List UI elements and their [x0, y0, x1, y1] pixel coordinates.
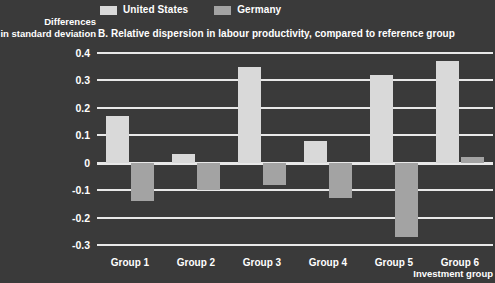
bar-united-states: [172, 154, 195, 162]
bar-germany: [197, 163, 220, 190]
legend-label-united-states: United States: [123, 5, 188, 15]
chart-title: B. Relative dispersion in labour product…: [98, 28, 455, 39]
bar-united-states: [436, 61, 459, 162]
bar-united-states: [238, 67, 261, 163]
y-axis-tick-label: 0.4: [75, 48, 90, 59]
bar-series-group: [97, 53, 493, 245]
y-axis-title-line-2: in standard deviation: [0, 28, 96, 40]
bar-group: [427, 53, 493, 245]
y-axis-tick-label: 0: [84, 157, 90, 168]
x-axis-label: Group 4: [295, 257, 361, 269]
y-axis-tick-label: -0.2: [72, 212, 90, 223]
chart-container: United States Germany Differences in sta…: [0, 0, 495, 283]
x-axis-label: Group 2: [163, 257, 229, 269]
chart-legend: United States Germany: [100, 3, 281, 17]
bar-germany: [461, 157, 484, 162]
legend-swatch-united-states: [100, 6, 117, 15]
y-axis-title: Differences in standard deviation: [0, 16, 96, 39]
y-axis-tick-label: 0.3: [75, 75, 90, 86]
legend-swatch-germany: [214, 6, 231, 15]
y-axis-tick-label: 0.1: [75, 130, 90, 141]
legend-label-germany: Germany: [237, 5, 281, 15]
bar-group: [295, 53, 361, 245]
plot-area: 0.40.30.20.10-0.1-0.2-0.3: [97, 53, 493, 245]
bar-germany: [263, 163, 286, 185]
y-axis-tick-label: -0.3: [72, 240, 90, 251]
bar-united-states: [106, 116, 129, 163]
y-axis-tick-label: 0.2: [75, 102, 90, 113]
y-axis-tick-label: -0.1: [72, 185, 90, 196]
bar-germany: [395, 163, 418, 237]
legend-item-united-states: United States: [100, 5, 188, 15]
legend-item-germany: Germany: [214, 5, 281, 15]
bar-germany: [131, 163, 154, 201]
x-axis-label: Group 3: [229, 257, 295, 269]
x-axis-title: Investment group: [413, 268, 493, 279]
bar-united-states: [304, 141, 327, 163]
bar-group: [163, 53, 229, 245]
bar-group: [361, 53, 427, 245]
x-axis-label: Group 1: [97, 257, 163, 269]
bar-united-states: [370, 75, 393, 163]
bar-group: [97, 53, 163, 245]
bar-germany: [329, 163, 352, 199]
bar-group: [229, 53, 295, 245]
y-axis-title-line-1: Differences: [0, 16, 96, 28]
